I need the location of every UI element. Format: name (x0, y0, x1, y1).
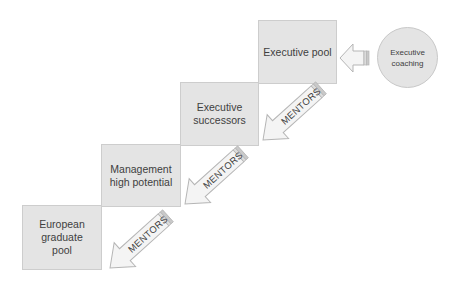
mentors-arrow-3: MENTORS (99, 204, 178, 280)
mentors-arrow-2: MENTORS (174, 140, 253, 216)
mentors-arrow-label: MENTORS (201, 149, 245, 190)
arrows-layer: MENTORS MENTORS MENTORS (0, 0, 452, 287)
coaching-arrow (340, 44, 369, 72)
mentors-arrow-label: MENTORS (126, 213, 170, 254)
mentors-arrow-label: MENTORS (279, 85, 323, 126)
mentors-arrow-1: MENTORS (252, 76, 331, 152)
